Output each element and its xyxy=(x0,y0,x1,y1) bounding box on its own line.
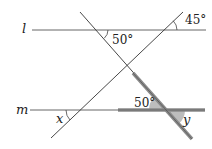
angle-label-50-top: 50° xyxy=(112,34,133,46)
transversal-ascending xyxy=(51,12,183,138)
angle-label-50-bottom: 50° xyxy=(134,97,155,109)
line-label-m: m xyxy=(16,103,28,116)
angle-label-y: y xyxy=(183,113,190,126)
diagram-canvas xyxy=(0,0,212,149)
arc-x xyxy=(66,110,70,120)
angle-label-x: x xyxy=(56,112,63,125)
arc-50-top xyxy=(104,30,108,38)
geometry-diagram: l m 50° 45° 50° x y xyxy=(0,0,212,149)
line-label-l: l xyxy=(22,22,26,35)
angle-label-45: 45° xyxy=(185,14,206,26)
arc-45 xyxy=(173,21,177,30)
